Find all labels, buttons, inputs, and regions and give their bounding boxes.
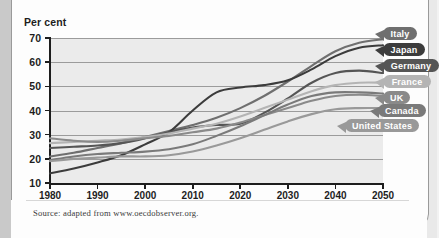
legend-pill-canada[interactable]: Canada — [378, 104, 426, 117]
legend-pointer-italy — [375, 30, 384, 41]
legend-pointer-united-states — [337, 122, 346, 133]
legend-pill-japan[interactable]: Japan — [383, 43, 425, 56]
legend-pill-germany[interactable]: Germany — [383, 59, 439, 72]
legend-pointer-france — [375, 78, 384, 89]
legend-pill-italy[interactable]: Italy — [383, 27, 417, 40]
legend-pill-france[interactable]: France — [383, 75, 431, 88]
legend-pointer-canada — [370, 107, 379, 118]
legend-pill-united-states[interactable]: United States — [345, 119, 419, 132]
legend-pointer-japan — [375, 46, 384, 57]
footer-divider — [26, 200, 409, 201]
source-note: Source: adapted from www.oecdobserver.or… — [33, 208, 199, 218]
legend-pill-uk[interactable]: UK — [383, 91, 410, 104]
legend-pointer-germany — [375, 62, 384, 73]
